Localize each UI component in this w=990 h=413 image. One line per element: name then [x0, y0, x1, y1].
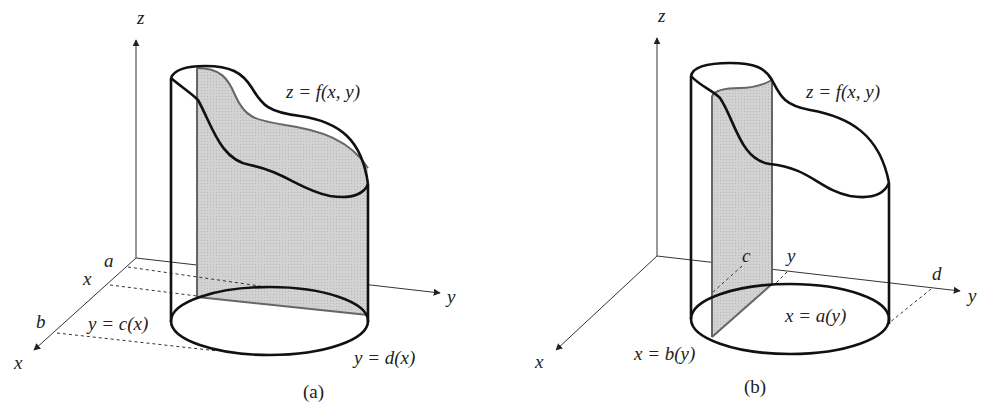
x-axis-label-b: x [534, 351, 544, 372]
z-axis-label-a: z [136, 7, 145, 28]
caption-a: (a) [303, 381, 324, 403]
upper-bound-label-a: y = d(x) [352, 347, 415, 369]
surface-label-a: z = f(x, y) [285, 81, 360, 103]
y-axis-label-a: y [445, 286, 456, 307]
tick-label-d: d [932, 263, 942, 284]
panel-a: z y x z = f(x, y) a x b y = c(x) y = d(x… [13, 7, 456, 403]
upper-bound-label-b: x = b(y) [633, 343, 695, 365]
cross-section-slab-b [712, 80, 772, 337]
surface-label-b: z = f(x, y) [805, 81, 880, 103]
tick-label-y: y [785, 245, 796, 266]
x-axis-b [556, 256, 657, 350]
lower-bound-label-b: x = a(y) [784, 305, 846, 327]
tick-label-x: x [82, 268, 92, 289]
panel-b: z y x z = f(x, y) c y d x = a(y) x = b(y… [534, 5, 977, 398]
dash-x-line [110, 285, 197, 296]
tick-label-c: c [742, 245, 751, 266]
caption-b: (b) [744, 376, 766, 398]
figure-canvas: z y x z = f(x, y) a x b y = c(x) y = d(x… [0, 0, 990, 413]
dash-y-line [776, 272, 787, 283]
lower-bound-label-a: y = c(x) [86, 313, 148, 335]
x-axis-label-a: x [13, 352, 23, 373]
z-axis-label-b: z [657, 5, 666, 26]
dash-d-line [889, 289, 931, 323]
tick-label-b: b [36, 311, 46, 332]
cross-section-slab-a [197, 68, 368, 315]
y-axis-label-b: y [966, 285, 977, 306]
tick-label-a: a [104, 250, 114, 271]
